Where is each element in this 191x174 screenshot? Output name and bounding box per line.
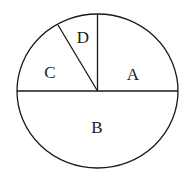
sector-label-a: A (127, 65, 140, 84)
sector-label-b: B (91, 118, 102, 137)
sector-label-c: C (44, 63, 55, 82)
sector-label-d: D (77, 28, 89, 47)
pie-diagram: A B C D (0, 0, 191, 174)
